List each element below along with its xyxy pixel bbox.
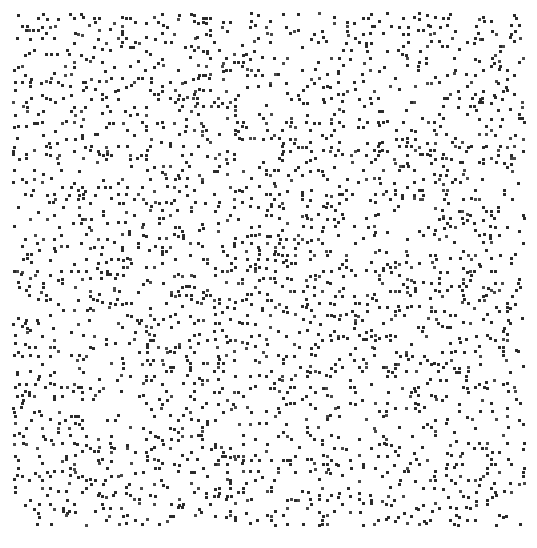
plot-area (0, 0, 537, 548)
scatter-plot-figure (0, 0, 537, 548)
scatter-points-canvas (0, 0, 537, 548)
